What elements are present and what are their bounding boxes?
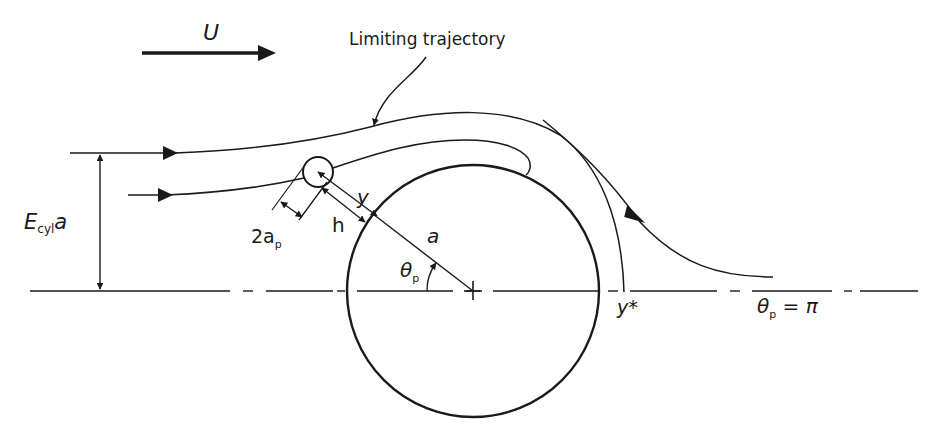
- wake-streamline: [543, 120, 773, 277]
- limiting-trajectory-line: [70, 113, 624, 292]
- upper-stream-arrow-icon: [163, 146, 178, 160]
- particle-diameter-label: 2ap: [251, 225, 282, 251]
- particle-trajectory-line: [128, 178, 304, 195]
- ap-dimension-line: [281, 202, 302, 217]
- gap-label: h: [332, 213, 345, 237]
- limiting-trajectory-pointer: [374, 57, 426, 125]
- lower-stream-arrow-icon: [158, 188, 173, 202]
- cylinder-radius-label: a: [427, 224, 439, 248]
- ap-extension-line-2: [299, 182, 327, 220]
- collision-efficiency-label: Ecyla: [24, 210, 67, 236]
- flow-diagram: U Limiting trajectory: [0, 0, 940, 436]
- angle-label: θp: [400, 258, 419, 285]
- rear-angle-label: θp = π: [757, 294, 819, 321]
- y-star-label: y*: [616, 296, 638, 318]
- angle-arc: [427, 263, 436, 291]
- distance-label: y: [356, 185, 370, 209]
- cylinder-radius-line: [373, 214, 473, 291]
- particle-trajectory-continuation: [333, 140, 530, 175]
- free-stream-arrow: [142, 45, 276, 61]
- limiting-trajectory-label: Limiting trajectory: [349, 29, 506, 49]
- free-stream-label: U: [203, 20, 219, 45]
- wake-stream-arrow-icon: [626, 208, 640, 220]
- ap-extension-line-1: [272, 165, 305, 210]
